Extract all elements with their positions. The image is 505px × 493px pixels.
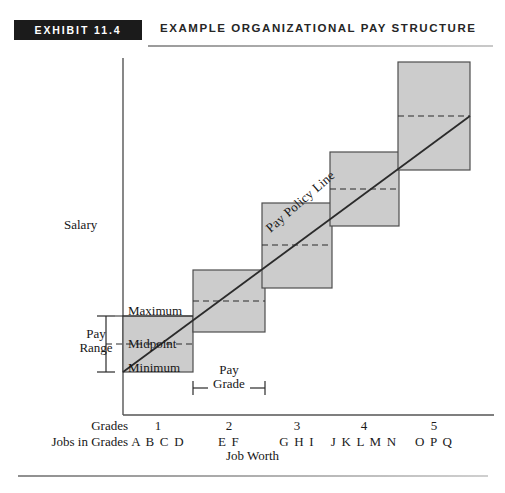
- grade-boxes: [123, 62, 470, 372]
- maximum-label: Maximum: [128, 303, 182, 319]
- x-axis-title: Job Worth: [0, 448, 505, 464]
- pay-policy-line: [123, 116, 470, 372]
- footer-divider: [18, 475, 488, 477]
- midpoint-label: Midpoint: [128, 336, 176, 352]
- pay-grade-label: Pay Grade: [205, 363, 253, 391]
- grades-row-label: Grades: [18, 418, 128, 434]
- pay-grade-line-1: Pay: [205, 363, 253, 377]
- grade-number-5: 5: [404, 418, 464, 434]
- pay-grade-line-2: Grade: [205, 377, 253, 391]
- chart-canvas: [0, 0, 505, 470]
- pay-structure-chart: Salary Maximum Midpoint Minimum Pay Rang…: [0, 0, 505, 470]
- grade-number-4: 4: [334, 418, 394, 434]
- pay-range-label: Pay Range: [74, 327, 118, 355]
- y-axis-label: Salary: [64, 217, 97, 233]
- grade-number-1: 1: [128, 418, 188, 434]
- grade-number-2: 2: [199, 418, 259, 434]
- pay-range-line-1: Pay: [74, 327, 118, 341]
- minimum-label: Minimum: [128, 360, 180, 376]
- pay-range-line-2: Range: [74, 341, 118, 355]
- grade-number-3: 3: [267, 418, 327, 434]
